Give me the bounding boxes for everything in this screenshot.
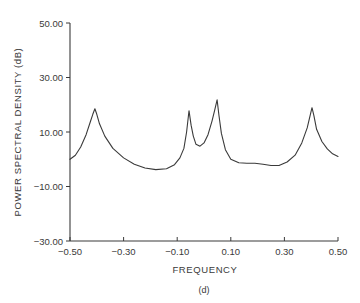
y-tick-label: −10.00 [34, 181, 63, 192]
x-axis: −0.50−0.30−0.100.100.300.50 [58, 237, 347, 257]
y-tick-label: 30.00 [39, 72, 63, 83]
y-axis: 50.0030.0010.00−10.00−30.00 [34, 18, 70, 247]
psd-chart: 50.0030.0010.00−10.00−30.00 −0.50−0.30−0… [0, 0, 360, 303]
y-tick-label: 50.00 [39, 18, 63, 29]
x-tick-label: −0.50 [58, 246, 82, 257]
y-tick-label: −30.00 [34, 236, 63, 247]
x-tick-label: 0.50 [329, 246, 348, 257]
x-tick-label: 0.10 [222, 246, 241, 257]
figure-caption: (d) [199, 285, 210, 295]
x-tick-label: −0.30 [112, 246, 136, 257]
x-tick-label: −0.10 [165, 246, 189, 257]
x-axis-title: FREQUENCY [172, 264, 237, 275]
psd-series-line [70, 100, 338, 170]
y-tick-label: 10.00 [39, 127, 63, 138]
y-axis-title: POWER SPECTRAL DENSITY (dB) [12, 48, 23, 217]
x-tick-label: 0.30 [275, 246, 294, 257]
